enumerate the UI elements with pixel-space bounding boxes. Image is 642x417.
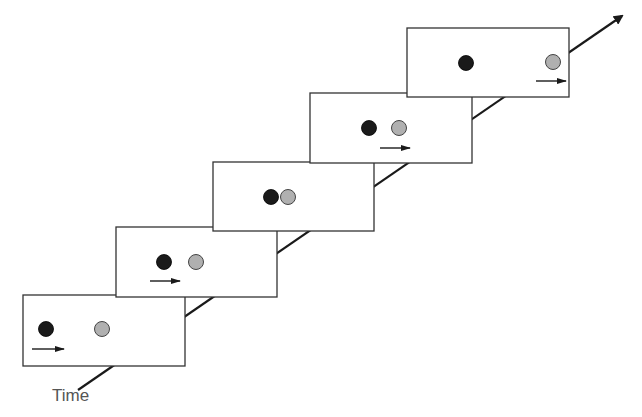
gray-ball-icon	[392, 121, 407, 136]
gray-ball-icon	[546, 55, 561, 70]
black-ball-icon	[362, 121, 377, 136]
black-ball-icon	[459, 56, 474, 71]
gray-ball-icon	[189, 255, 204, 270]
black-ball-icon	[39, 322, 54, 337]
frame-box	[407, 28, 569, 97]
frames	[23, 28, 569, 366]
frame-1	[23, 295, 185, 366]
frame-2	[116, 227, 277, 297]
frame-3	[213, 162, 374, 231]
gray-ball-icon	[281, 190, 296, 205]
black-ball-icon	[157, 255, 172, 270]
frame-5	[407, 28, 569, 97]
gray-ball-icon	[95, 322, 110, 337]
frame-4	[310, 93, 472, 163]
time-axis-label: Time	[52, 386, 89, 406]
collision-diagram	[0, 0, 642, 417]
black-ball-icon	[264, 190, 279, 205]
